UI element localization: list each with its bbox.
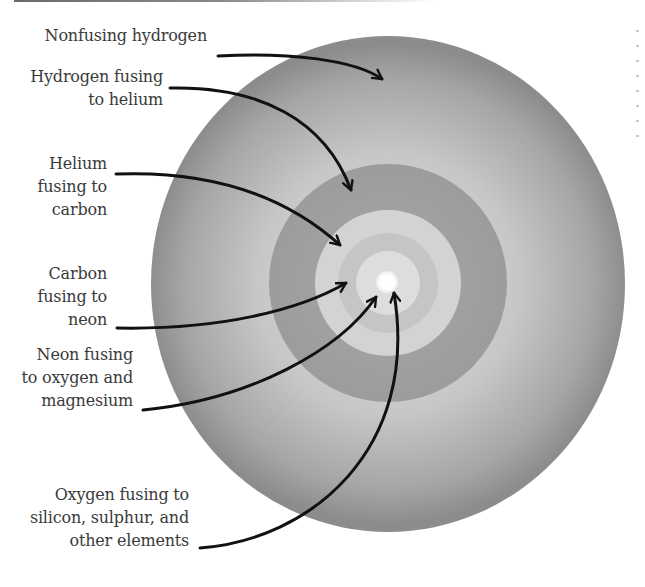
label-line: fusing to <box>38 285 107 308</box>
label-line: to helium <box>30 88 163 111</box>
layer-oxygen-core <box>376 271 398 293</box>
label-line: Hydrogen fusing <box>30 65 163 88</box>
label-line: silicon, sulphur, and <box>30 506 189 529</box>
label-line: other elements <box>30 529 189 552</box>
label-line: fusing to <box>38 175 107 198</box>
label-line: carbon <box>38 198 107 221</box>
label-line: Helium <box>38 152 107 175</box>
label-carbon-to-neon: Carbon fusing to neon <box>38 262 107 331</box>
label-line: Oxygen fusing to <box>30 483 189 506</box>
label-line: Neon fusing <box>22 343 133 366</box>
label-neon-to-oxygen-magnesium: Neon fusing to oxygen and magnesium <box>22 343 133 412</box>
label-line: to oxygen and <box>22 366 133 389</box>
label-oxygen-to-silicon-sulphur: Oxygen fusing to silicon, sulphur, and o… <box>30 483 189 552</box>
label-nonfusing-hydrogen: Nonfusing hydrogen <box>45 24 207 47</box>
label-line: neon <box>38 308 107 331</box>
label-line: magnesium <box>22 389 133 412</box>
label-hydrogen-to-helium: Hydrogen fusing to helium <box>30 65 163 111</box>
label-line: Carbon <box>38 262 107 285</box>
label-line: Nonfusing hydrogen <box>45 24 207 47</box>
label-helium-to-carbon: Helium fusing to carbon <box>38 152 107 221</box>
